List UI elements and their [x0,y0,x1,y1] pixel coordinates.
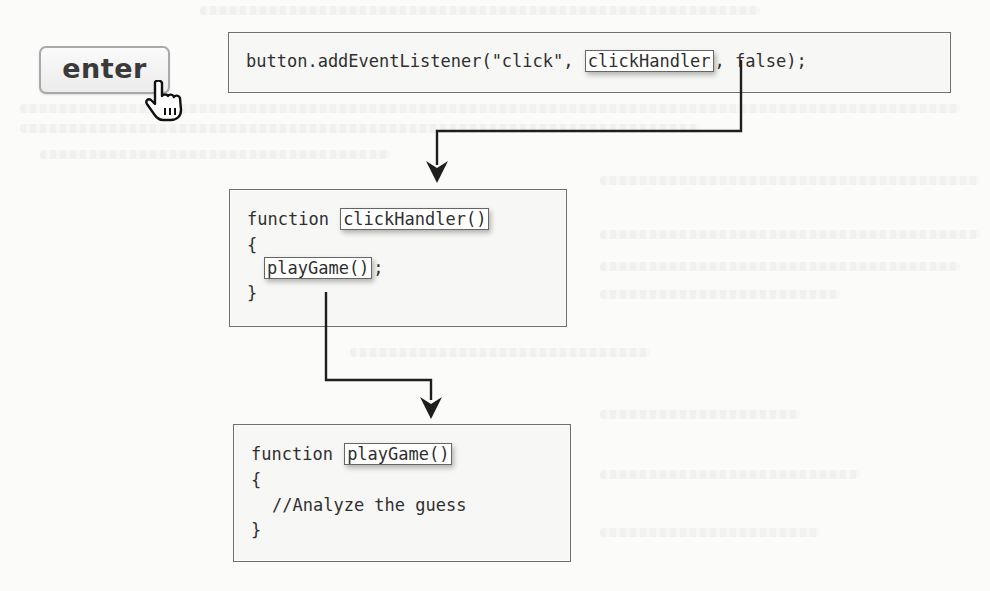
background-bleed-line [40,150,390,159]
analyze-comment: //Analyze the guess [272,494,466,516]
click-handler-code-box: function clickHandler() { playGame(); } [229,189,567,327]
background-bleed-line [600,528,820,537]
function-keyword: function [251,444,343,464]
arrowhead-icon [426,161,448,183]
close-brace: } [247,282,257,304]
statement-terminator: ; [373,258,383,278]
pointing-hand-cursor-icon [143,80,195,122]
background-bleed-line [600,262,960,271]
click-handler-name-highlight: clickHandler() [340,208,489,230]
listener-prefix: button.addEventListener("click", [246,51,584,71]
play-game-code-box: function playGame() { //Analyze the gues… [233,424,571,562]
listener-suffix: , false); [715,51,807,71]
listener-handler-highlight: clickHandler [585,50,714,72]
background-bleed-line [350,348,650,357]
close-brace: } [251,519,261,541]
play-game-name-highlight: playGame() [344,443,452,465]
background-bleed-line [20,124,700,133]
background-bleed-line [600,230,980,239]
arrowhead-icon [420,397,442,419]
click-handler-signature: function clickHandler() [247,208,490,230]
play-game-call-highlight: playGame() [264,257,372,279]
background-bleed-line [600,176,980,185]
background-bleed-line [200,6,760,15]
function-keyword: function [247,209,339,229]
background-bleed-line [600,290,840,299]
listener-code-box: button.addEventListener("click", clickHa… [228,32,951,93]
open-brace: { [251,469,261,491]
listener-code-line: button.addEventListener("click", clickHa… [246,50,807,72]
play-game-call-line: playGame(); [263,257,384,279]
play-game-signature: function playGame() [251,443,453,465]
background-bleed-line [600,470,860,479]
open-brace: { [247,234,257,256]
background-bleed-line [600,410,800,419]
